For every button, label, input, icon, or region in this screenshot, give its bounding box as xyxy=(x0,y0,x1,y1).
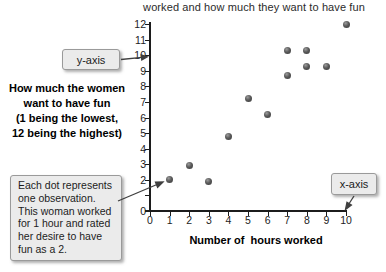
y-axis-label: How much the women want to have fun (1 b… xyxy=(2,81,132,141)
y-tick-label: 6 xyxy=(122,112,146,124)
data-point xyxy=(284,47,291,54)
y-axis-label-line: (1 being the lowest, xyxy=(2,111,132,126)
x-tick-label: 5 xyxy=(238,214,258,226)
x-tick-label: 6 xyxy=(258,214,278,226)
y-tick-label: 5 xyxy=(122,127,146,139)
y-tick-label: 9 xyxy=(122,65,146,77)
scatter-plot-figure: worked and how much they want to have fu… xyxy=(0,0,386,272)
observation-callout: Each dot represents one observation. Thi… xyxy=(10,175,122,261)
x-tick-label: 1 xyxy=(160,214,180,226)
x-tick-label: 7 xyxy=(277,214,297,226)
data-point xyxy=(284,72,291,79)
y-tick-label: 0 xyxy=(122,205,146,217)
data-point xyxy=(245,95,252,102)
y-tick-label: 12 xyxy=(122,18,146,30)
chart-title: worked and how much they want to have fu… xyxy=(124,1,384,13)
x-axis-title: Number of hours worked xyxy=(156,234,356,246)
data-point xyxy=(186,162,193,169)
x-tick-label: 8 xyxy=(297,214,317,226)
y-tick-label: 4 xyxy=(122,143,146,155)
y-tick-label: 2 xyxy=(122,174,146,186)
y-tick-label: 10 xyxy=(122,49,146,61)
x-axis-arrow xyxy=(349,196,355,205)
y-axis-label-line: 12 being the highest) xyxy=(2,126,132,141)
x-tick-label: 3 xyxy=(199,214,219,226)
y-axis-label-line: want to have fun xyxy=(2,96,132,111)
y-tick-label: 8 xyxy=(122,80,146,92)
x-axis-callout-label: x-axis xyxy=(340,178,369,190)
data-point xyxy=(225,133,232,140)
y-tick-label: 3 xyxy=(122,158,146,170)
data-point xyxy=(323,63,330,70)
data-point xyxy=(303,63,310,70)
data-point xyxy=(166,176,173,183)
data-point xyxy=(303,47,310,54)
y-tick-label: 7 xyxy=(122,96,146,108)
data-point xyxy=(205,178,212,185)
x-axis-arrowhead xyxy=(346,202,352,209)
y-tick-label: 11 xyxy=(122,34,146,46)
y-axis-callout: y-axis xyxy=(62,49,120,70)
x-axis-callout: x-axis xyxy=(331,173,377,195)
data-point xyxy=(264,111,271,118)
x-tick-label: 4 xyxy=(218,214,238,226)
y-axis-label-line: How much the women xyxy=(2,81,132,96)
x-axis-line xyxy=(145,210,347,212)
observation-arrowhead xyxy=(156,182,164,187)
x-tick-label: 9 xyxy=(316,214,336,226)
x-tick-label: 2 xyxy=(179,214,199,226)
data-point xyxy=(343,21,350,28)
observation-arrow xyxy=(118,185,157,202)
y-tick-mark xyxy=(145,195,150,196)
y-axis-callout-label: y-axis xyxy=(77,54,106,66)
x-tick-label: 10 xyxy=(336,214,356,226)
